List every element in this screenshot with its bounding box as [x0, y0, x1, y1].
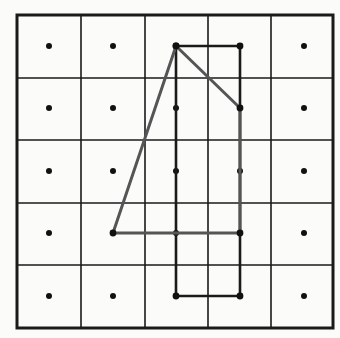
grid-dot: [301, 168, 307, 174]
vertex-dot: [173, 293, 180, 300]
grid-dot: [110, 105, 116, 111]
grid-dot: [110, 293, 116, 299]
dot-grid-diagram: [0, 0, 340, 338]
geometric-shapes: [110, 43, 244, 300]
grid-dot: [301, 43, 307, 49]
grid-dot: [301, 230, 307, 236]
vertex-dot: [237, 230, 244, 237]
grid-dot: [46, 293, 52, 299]
grid-dot: [46, 43, 52, 49]
grid-dot: [46, 168, 52, 174]
vertex-dot: [173, 43, 180, 50]
grid-dot: [110, 43, 116, 49]
vertex-dot: [110, 230, 117, 237]
grid-dot: [46, 105, 52, 111]
vertex-dot: [237, 43, 244, 50]
grid-dot: [301, 293, 307, 299]
grid-dot: [110, 168, 116, 174]
grid-dot: [301, 105, 307, 111]
vertex-dot: [237, 105, 244, 112]
vertex-dot: [237, 293, 244, 300]
grid-dot: [46, 230, 52, 236]
